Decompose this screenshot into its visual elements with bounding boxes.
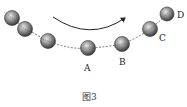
label-d: D	[177, 11, 184, 20]
pendulum-trajectory-diagram	[0, 0, 187, 107]
label-c: C	[159, 34, 166, 43]
label-a: A	[84, 64, 91, 73]
figure-caption: 图3	[82, 93, 97, 102]
label-b: B	[119, 58, 126, 67]
motion-arrow-icon	[53, 17, 125, 30]
